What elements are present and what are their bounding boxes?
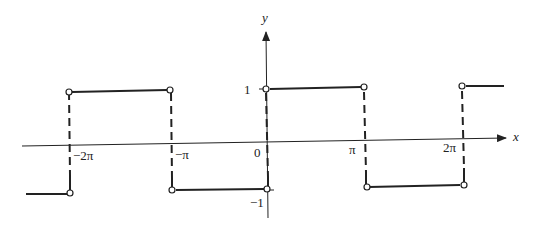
y-tick-label-neg1: −1 (250, 196, 264, 209)
y-tick-label-1: 1 (244, 83, 251, 96)
x-tick-2pi: 2π (443, 141, 456, 154)
square-wave-plot (0, 0, 533, 232)
x-tick-zero: 0 (254, 146, 261, 159)
x-axis-label: x (513, 130, 519, 143)
y-axis-label: y (262, 11, 268, 24)
square-wave (26, 86, 504, 194)
x-tick-neg2pi: −2π (73, 149, 93, 162)
x-axis (22, 138, 506, 146)
x-tick-negpi: −π (175, 148, 189, 161)
x-tick-pi: π (349, 143, 356, 156)
